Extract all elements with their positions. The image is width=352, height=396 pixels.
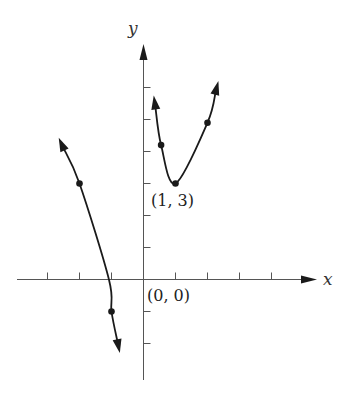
right-branch-curve [155,91,216,184]
left-branch [59,138,122,353]
data-point [158,142,165,149]
function-graph: y x (1, 3) (0, 0) [0,0,352,396]
arrow-up-left-icon [59,138,69,153]
origin-label: (0, 0) [147,286,190,305]
right-branch [151,81,219,184]
data-point [108,308,115,315]
y-axis-arrow-icon [140,44,148,60]
axes [17,44,317,380]
arrow-up-left-icon [151,96,160,111]
x-axis-label: x [323,269,333,289]
data-point [204,119,211,126]
x-axis-arrow-icon [301,276,317,284]
arrow-down-icon [113,338,122,353]
axis-ticks [48,88,272,344]
arrow-up-right-icon [210,81,219,96]
data-point [76,180,83,187]
vertex-label: (1, 3) [151,191,194,210]
data-point [172,180,179,187]
y-axis-label: y [127,18,138,38]
